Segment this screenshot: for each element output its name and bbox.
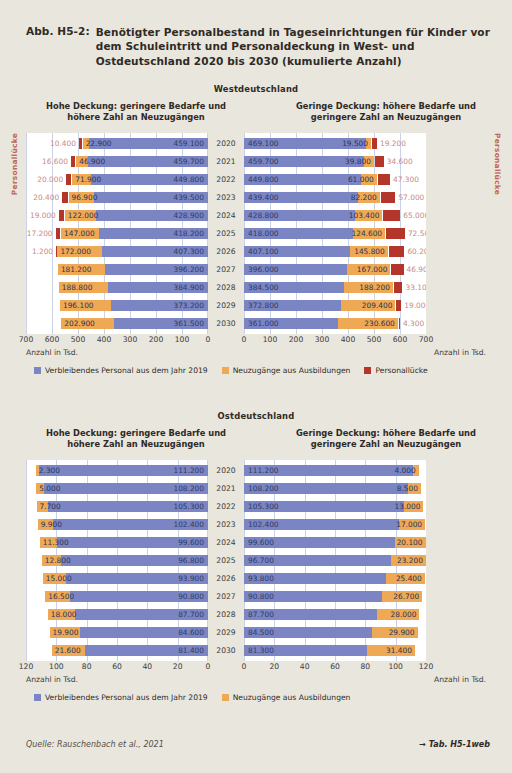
bar-value-label: 407.300 <box>173 246 204 257</box>
bar-value-label: 9.900 <box>41 519 62 530</box>
axis-tick-label: 20 <box>173 662 183 671</box>
axis-tick-label: 0 <box>242 662 247 671</box>
axis-tick-label: 300 <box>123 335 138 344</box>
legend-item-orange-west: Neuzugänge aus Ausbildungen <box>222 366 351 375</box>
year-label: 2024 <box>208 210 244 221</box>
axis-tick-label: 40 <box>142 662 152 671</box>
axis-tick-label: 100 <box>263 335 278 344</box>
bar-value-label: 108.200 <box>173 483 204 494</box>
legend-label-blue: Verbleibendes Personal aus dem Jahr 2019 <box>45 366 208 375</box>
bar-value-label: 31.400 <box>352 645 412 656</box>
bar-value-label: 102.400 <box>248 519 279 530</box>
bar-segment-personalluecke <box>383 210 400 221</box>
bar-segment-personalluecke <box>391 264 403 275</box>
bar-value-label: 93.800 <box>248 573 274 584</box>
x-axis-east: 120100806040200020406080100120 <box>26 662 486 675</box>
bar-value-label: 20.100 <box>363 537 423 548</box>
gap-value-label: 57.000 <box>398 192 424 203</box>
bar-value-label: 39.800 <box>311 156 371 167</box>
bar-value-label: 373.200 <box>173 300 204 311</box>
bar-value-label: 384.500 <box>248 282 279 293</box>
year-label: 2021 <box>208 156 244 167</box>
bar-value-label: 145.800 <box>325 246 385 257</box>
bar-value-label: 124.600 <box>322 228 382 239</box>
bar-value-label: 46.900 <box>79 156 105 167</box>
year-label: 2024 <box>208 537 244 548</box>
figure-footer: Quelle: Rauschenbach et al., 2021 → Tab.… <box>26 740 490 749</box>
chart-ostdeutschland: Ostdeutschland Hohe Deckung: geringere B… <box>26 411 486 702</box>
bar-value-label: 396.200 <box>173 264 204 275</box>
legend-swatch-orange-icon <box>222 694 229 701</box>
figure-title-block: Abb. H5-2: Benötigter Personalbestand in… <box>26 25 490 68</box>
year-label: 2021 <box>208 483 244 494</box>
bar-value-label: 26.700 <box>359 591 419 602</box>
bar-value-label: 90.800 <box>178 591 204 602</box>
axis-tick-label: 700 <box>19 335 34 344</box>
axis-tick-label: 0 <box>206 662 211 671</box>
legend-label-orange: Neuzugänge aus Ausbildungen <box>233 693 351 702</box>
bar-value-label: 384.900 <box>173 282 204 293</box>
axis-tick-label: 0 <box>242 335 247 344</box>
figure-number: Abb. H5-2: <box>26 25 90 37</box>
bar-value-label: 188.200 <box>330 282 390 293</box>
gap-value-label: 33.100 <box>406 282 427 293</box>
bar-value-label: 167.000 <box>327 264 387 275</box>
bar-value-label: 172.000 <box>60 246 91 257</box>
bar-value-label: 418.000 <box>248 228 279 239</box>
year-column-west: 2020202120222023202420252026202720282029… <box>208 133 244 334</box>
pane-right-east: 111.2004.000108.2008.500105.30013.000102… <box>244 460 426 661</box>
bar-value-label: 105.300 <box>248 501 279 512</box>
axis-tick-label: 40 <box>300 662 310 671</box>
bar-value-label: 82.200 <box>317 192 377 203</box>
axis-tick-label: 0 <box>206 335 211 344</box>
year-label: 2025 <box>208 228 244 239</box>
axis-tick-label: 200 <box>149 335 164 344</box>
axis-tick-label: 600 <box>45 335 60 344</box>
gap-value-label: 60.200 <box>407 246 426 257</box>
gap-value-label: 16.600 <box>26 156 68 167</box>
gap-value-label: 17.200 <box>26 228 53 239</box>
axis-tick-label: 120 <box>419 662 434 671</box>
bar-value-label: 147.000 <box>64 228 95 239</box>
gap-value-label: 1.200 <box>26 246 53 257</box>
bar-value-label: 96.800 <box>178 555 204 566</box>
bar-segment-personalluecke <box>394 282 403 293</box>
legend-swatch-red-icon <box>364 367 371 374</box>
bar-value-label: 4.000 <box>356 465 416 476</box>
axis-tick-label: 100 <box>49 662 64 671</box>
year-label: 2028 <box>208 282 244 293</box>
legend-item-blue-west: Verbleibendes Personal aus dem Jahr 2019 <box>34 366 208 375</box>
year-label: 2029 <box>208 627 244 638</box>
scenario-label-left-west: Hohe Deckung: geringere Bedarfe und höhe… <box>42 101 230 124</box>
axis-tick-label: 400 <box>97 335 112 344</box>
gap-value-label: 72.500 <box>408 228 426 239</box>
axis-tick-label: 80 <box>82 662 92 671</box>
axis-tick-label: 300 <box>315 335 330 344</box>
year-label: 2030 <box>208 645 244 656</box>
bar-segment-personalluecke <box>378 174 390 185</box>
axis-tick-label: 700 <box>419 335 434 344</box>
axis-tick-label: 20 <box>269 662 279 671</box>
side-label-right-west: Personallücke <box>493 133 502 195</box>
bar-value-label: 5.000 <box>39 483 60 494</box>
bar-value-label: 181.200 <box>61 264 92 275</box>
year-label: 2029 <box>208 300 244 311</box>
bar-value-label: 230.600 <box>335 318 395 329</box>
axis-tick-label: 80 <box>360 662 370 671</box>
year-label: 2020 <box>208 465 244 476</box>
plot-area-east: 2.300111.2005.000108.2007.700105.3009.90… <box>26 460 486 702</box>
gap-value-label: 20.000 <box>26 174 63 185</box>
axis-tick-label: 120 <box>19 662 34 671</box>
gap-value-label: 65.000 <box>403 210 426 221</box>
year-label: 2028 <box>208 609 244 620</box>
table-reference[interactable]: → Tab. H5-1web <box>419 740 490 749</box>
bar-value-label: 81.300 <box>248 645 274 656</box>
bar-value-label: 122.000 <box>68 210 99 221</box>
bar-value-label: 25.400 <box>362 573 422 584</box>
bar-value-label: 428.900 <box>173 210 204 221</box>
axis-tick-label: 600 <box>393 335 408 344</box>
gridline <box>26 460 27 661</box>
pane-left-east: 2.300111.2005.000108.2007.700105.3009.90… <box>26 460 208 661</box>
legend-east: Verbleibendes Personal aus dem Jahr 2019… <box>26 693 486 702</box>
legend-label-red: Personallücke <box>375 366 427 375</box>
